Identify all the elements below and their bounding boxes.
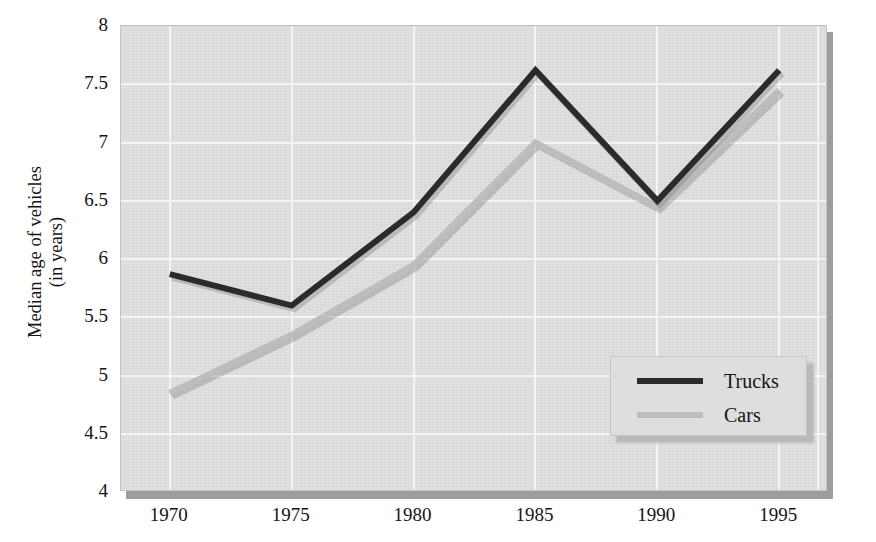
x-axis-tick-label: 1970 <box>150 504 188 526</box>
x-axis-tick-label: 1975 <box>272 504 310 526</box>
legend-label: Cars <box>724 404 761 427</box>
x-axis-tick-label: 1995 <box>759 504 797 526</box>
legend-swatch-cars <box>637 412 703 418</box>
line-chart: Median age of vehicles (in years) 44.555… <box>0 0 876 542</box>
x-axis-tick-label: 1990 <box>637 504 675 526</box>
chart-legend[interactable]: TrucksCars <box>610 356 807 436</box>
legend-swatch-trucks <box>637 378 703 384</box>
legend-item[interactable]: Cars <box>611 398 806 432</box>
x-axis-tick-label: 1980 <box>394 504 432 526</box>
x-axis-tick-label: 1985 <box>515 504 553 526</box>
legend-label: Trucks <box>724 370 779 393</box>
x-axis-tick-labels: 197019751980198519901995 <box>0 0 876 542</box>
legend-item[interactable]: Trucks <box>611 364 806 398</box>
